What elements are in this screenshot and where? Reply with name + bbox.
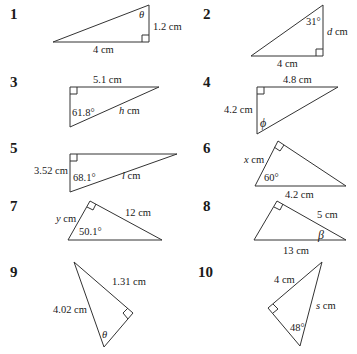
problem-number-6: 6: [203, 140, 211, 157]
side-label-9-right: 1.31 cm: [112, 277, 146, 288]
triangle-2: [251, 5, 323, 56]
right-angle-marker-1: [142, 35, 149, 42]
problem-number-2: 2: [203, 6, 211, 23]
hyp-label-5: l cm: [122, 171, 140, 182]
side-label-1-vertical: 1.2 cm: [153, 22, 182, 33]
problem-number-3: 3: [10, 74, 18, 91]
problem-number-7: 7: [10, 198, 18, 215]
right-angle-marker-10: [273, 304, 278, 313]
side-label-8-right: 5 cm: [317, 210, 338, 221]
side-label-4-left: 4.2 cm: [224, 105, 253, 116]
triangle-8: [254, 201, 346, 240]
right-angle-marker-9: [123, 308, 128, 319]
right-angle-marker-2: [316, 49, 323, 56]
side-label-4-top: 4.8 cm: [283, 75, 312, 86]
right-angle-marker-8: [274, 204, 283, 210]
problem-number-1: 1: [10, 6, 18, 23]
side-label-2-base: 4 cm: [277, 59, 298, 70]
hyp-label-6: 4.2 cm: [285, 190, 314, 201]
problem-number-4: 4: [203, 74, 211, 91]
triangle-4: [257, 87, 338, 134]
hyp-label-3: h cm: [119, 106, 140, 117]
angle-label-5: 68.1°: [73, 173, 96, 184]
angle-label-6: 60°: [264, 173, 279, 184]
angle-label-3: 61.8°: [72, 108, 95, 119]
side-label-1-base: 4 cm: [93, 45, 114, 56]
angle-label-7: 50.1°: [79, 227, 102, 238]
right-angle-marker-4: [257, 87, 264, 94]
angle-label-10: 48°: [290, 323, 305, 334]
hyp-label-9: 4.02 cm: [53, 305, 87, 316]
side-label-7-right: 12 cm: [125, 208, 151, 219]
angle-label-4: ϕ: [260, 117, 266, 129]
angle-label-2: 31°: [306, 17, 321, 28]
triangle-1: [53, 5, 149, 42]
side-label-3-top: 5.1 cm: [93, 75, 122, 86]
right-angle-marker-5: [70, 154, 77, 161]
side-label-10-left: 4 cm: [274, 275, 295, 286]
triangles-figure: [0, 0, 357, 354]
problem-number-5: 5: [10, 140, 18, 157]
angle-label-1: θ: [139, 10, 144, 21]
side-label-7-left: y cm: [56, 214, 76, 225]
angle-label-9: θ: [102, 330, 107, 341]
side-label-5-left: 3.52 cm: [34, 166, 68, 177]
problem-number-9: 9: [10, 264, 18, 281]
right-angle-marker-3: [70, 87, 77, 94]
side-label-6-left: x cm: [244, 155, 264, 166]
hyp-label-10: s cm: [316, 301, 336, 312]
problem-number-10: 10: [198, 264, 213, 281]
hyp-label-8: 13 cm: [283, 246, 309, 257]
problem-number-8: 8: [203, 198, 211, 215]
angle-label-8: β: [318, 229, 324, 241]
side-label-2-vertical: d cm: [327, 27, 348, 38]
